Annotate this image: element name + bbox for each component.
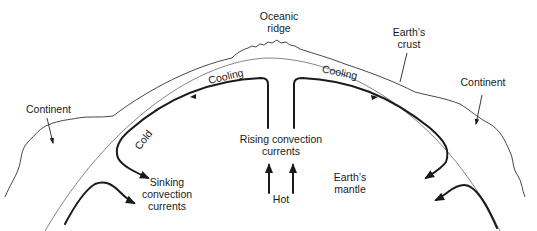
continent-left-surface [5,116,113,197]
label-earths-crust-2: crust [398,38,421,50]
label-oceanic-ridge-2: ridge [267,22,291,34]
convection-diagram: Oceanic ridge Earth’s crust Continent Co… [0,0,537,231]
earths-crust-pointer [400,53,407,82]
ocean-floor-left [113,58,232,116]
label-continent-right: Continent [461,76,506,88]
continent-left-pointer [47,118,53,143]
label-continent-left: Continent [26,103,71,115]
label-rising-1: Rising convection [240,133,322,145]
label-sinking-1: Sinking [150,176,185,188]
label-cold: Cold [132,127,155,152]
label-mantle-2: mantle [334,183,366,195]
continent-right-pointer [476,95,482,124]
left-cell-upper-flow [117,78,268,178]
label-earths-crust-1: Earth’s [393,26,426,38]
label-sinking-3: currents [148,200,186,212]
right-cell-lower-flow [436,185,497,228]
label-rising-2: currents [262,145,300,157]
left-cell-lower-flow [65,182,134,224]
label-mantle-1: Earth’s [334,171,367,183]
left-cooling-arrowhead [190,94,196,99]
label-cooling-right: Cooling [321,62,358,81]
continent-right-surface [415,92,525,197]
label-oceanic-ridge-1: Oceanic [260,10,299,22]
label-hot: Hot [273,193,289,205]
label-sinking-2: convection [142,188,192,200]
